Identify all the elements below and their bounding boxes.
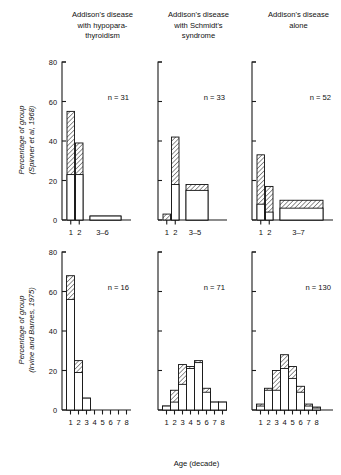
panel-title-line: Addison's disease — [72, 10, 133, 19]
x-tick-label: 1 — [259, 228, 263, 237]
panel-title-line: thyroidism — [85, 31, 120, 40]
histogram-figure: Addison's diseasewith hypopara-thyroidis… — [0, 0, 341, 475]
y-tick-label: 60 — [49, 288, 57, 297]
bar-white — [266, 212, 274, 220]
y-axis-label-bottom: Percentage of group(Irvine and Barnes, 1… — [17, 287, 36, 373]
panel-title-line: Addison's disease — [168, 10, 229, 19]
sample-size-label: n = 71 — [204, 283, 225, 292]
x-tick-label: 3–5 — [189, 228, 202, 237]
y-tick-label: 40 — [49, 327, 57, 336]
panel-bottom-middle: 12345678n = 71 — [158, 252, 227, 427]
bar-white — [273, 390, 281, 410]
panel-top-left: 020406080123–6n = 31 — [49, 58, 131, 237]
y-axis-label-line1: Percentage of group — [17, 296, 26, 365]
y-tick-label: 20 — [49, 177, 57, 186]
bar-white — [203, 392, 211, 410]
bar-white — [265, 390, 273, 410]
y-tick-label: 80 — [49, 58, 57, 67]
x-tick-label: 8 — [314, 418, 318, 427]
y-tick-label: 0 — [53, 216, 57, 225]
x-tick-label: 3 — [180, 418, 184, 427]
y-tick-label: 20 — [49, 367, 57, 376]
x-tick-label: 4 — [92, 418, 96, 427]
bar-white — [75, 372, 83, 410]
sample-size-label: n = 16 — [108, 283, 129, 292]
panel-title-line: syndrome — [182, 31, 215, 40]
bar-white — [257, 406, 265, 410]
bar-white — [67, 175, 75, 220]
y-tick-label: 40 — [49, 137, 57, 146]
x-tick-label: 3–6 — [96, 228, 109, 237]
panel-top-middle: 123–5n = 33 — [158, 62, 227, 237]
x-tick-label: 7 — [116, 418, 120, 427]
x-tick-label: 4 — [188, 418, 192, 427]
x-tick-label: 3–7 — [292, 228, 305, 237]
figure-panel-grid: Addison's diseasewith hypopara-thyroidis… — [0, 0, 341, 475]
bar-white — [171, 402, 179, 410]
x-tick-label: 3 — [274, 418, 278, 427]
x-tick-label: 2 — [76, 418, 80, 427]
x-tick-label: 2 — [77, 228, 81, 237]
x-tick-label: 1 — [165, 228, 169, 237]
y-axis-label-line2: (Irvine and Barnes, 1975) — [27, 287, 36, 373]
x-tick-label: 3 — [84, 418, 88, 427]
x-tick-label: 2 — [267, 228, 271, 237]
panel-top-right: 123–7n = 52 — [252, 62, 333, 237]
bar-white — [219, 402, 227, 410]
bar-white — [179, 384, 187, 410]
panel-title-line: alone — [289, 21, 308, 30]
x-tick-label: 8 — [124, 418, 128, 427]
bar-white — [257, 204, 265, 220]
panel-title-line: with hypopara- — [77, 21, 128, 30]
bar-white — [172, 184, 180, 220]
panel-title-line: with Schmidt's — [173, 21, 222, 30]
panel-bottom-left: 02040608012345678n = 16 — [49, 248, 131, 427]
x-tick-label: 7 — [212, 418, 216, 427]
bar-white — [313, 408, 321, 410]
bar-white — [83, 398, 91, 410]
y-tick-label: 0 — [53, 406, 57, 415]
bar-white — [280, 208, 323, 220]
x-tick-label: 6 — [108, 418, 112, 427]
x-tick-label: 5 — [290, 418, 294, 427]
bar-white — [297, 392, 305, 410]
bar-white — [211, 402, 219, 410]
sample-size-label: n = 31 — [108, 93, 129, 102]
x-tick-label: 8 — [220, 418, 224, 427]
bar-white — [186, 190, 208, 220]
y-tick-label: 60 — [49, 98, 57, 107]
y-axis-label-top: Percentage of group(Spinner et al, 1968) — [17, 105, 36, 174]
bar-white — [90, 216, 121, 220]
x-tick-label: 2 — [173, 228, 177, 237]
y-axis-label-line2: (Spinner et al, 1968) — [27, 105, 36, 174]
panel-title-line: Addison's disease — [268, 10, 329, 19]
bar-white — [305, 406, 313, 410]
bar-white — [281, 369, 289, 410]
x-tick-label: 7 — [306, 418, 310, 427]
sample-size-label: n = 130 — [305, 283, 331, 292]
x-tick-label: 5 — [196, 418, 200, 427]
x-tick-label: 6 — [204, 418, 208, 427]
x-tick-label: 6 — [298, 418, 302, 427]
bar-white — [163, 406, 171, 410]
bar-white — [187, 369, 195, 410]
sample-size-label: n = 52 — [310, 93, 331, 102]
bar-white — [76, 175, 84, 220]
x-axis-label: Age (decade) — [174, 459, 220, 468]
y-axis-label-line1: Percentage of group — [17, 106, 26, 175]
bar-white — [195, 363, 203, 410]
x-tick-label: 4 — [282, 418, 286, 427]
x-tick-label: 1 — [164, 418, 168, 427]
y-tick-label: 80 — [49, 248, 57, 257]
x-tick-label: 1 — [69, 228, 73, 237]
x-tick-label: 2 — [266, 418, 270, 427]
x-tick-label: 1 — [258, 418, 262, 427]
x-tick-label: 2 — [172, 418, 176, 427]
bar-hatched — [163, 214, 171, 220]
x-tick-label: 1 — [68, 418, 72, 427]
bar-white — [289, 378, 297, 410]
panel-bottom-right: 12345678n = 130 — [252, 252, 333, 427]
sample-size-label: n = 33 — [204, 93, 225, 102]
bar-white — [67, 299, 75, 410]
x-tick-label: 5 — [100, 418, 104, 427]
